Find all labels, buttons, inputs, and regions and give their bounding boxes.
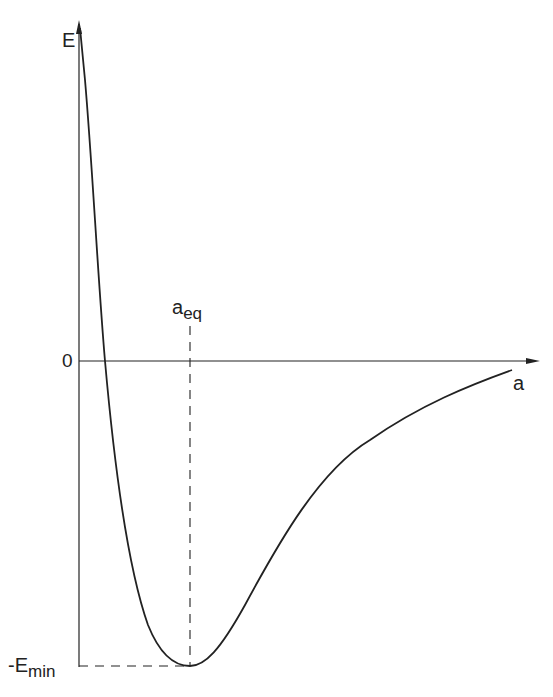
diagram-canvas: [0, 0, 553, 697]
origin-label: 0: [62, 351, 73, 370]
y-axis-label: E: [62, 30, 75, 50]
potential-curve: [80, 28, 512, 666]
minimum-label-main: -E: [8, 654, 28, 676]
equilibrium-label: aeq: [172, 297, 202, 322]
minimum-label: -Emin: [8, 655, 55, 680]
x-axis-arrow-icon: [526, 358, 540, 364]
x-axis-label: a: [513, 373, 524, 393]
equilibrium-label-sub: eq: [183, 304, 202, 323]
minimum-label-sub: min: [28, 662, 55, 681]
equilibrium-label-main: a: [172, 296, 183, 318]
potential-energy-diagram: E 0 a aeq -Emin: [0, 0, 553, 697]
